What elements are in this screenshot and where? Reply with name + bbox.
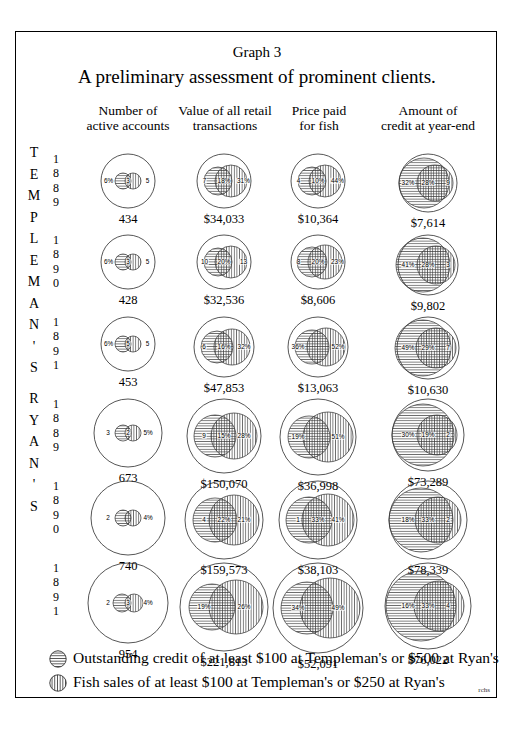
circle-value-label: 32% xyxy=(401,180,415,186)
circle-value-label: 10 xyxy=(200,259,208,265)
cell-total-label: $8,606 xyxy=(263,293,373,308)
brand-label-ryans: RYAN'S xyxy=(27,388,41,517)
circle-value-label: 30% xyxy=(401,432,415,438)
cell-total-label: 428 xyxy=(73,293,183,308)
year-digit: 8 xyxy=(50,411,62,425)
circle-value-label: 18% xyxy=(217,178,231,184)
year-label: 1889 xyxy=(50,397,62,455)
brand-letter: E xyxy=(27,250,41,272)
brand-letter: R xyxy=(27,388,41,410)
year-digit: 9 xyxy=(50,590,62,604)
circle-value-label: 6% xyxy=(103,178,113,184)
circle-value-label: 22% xyxy=(217,517,231,523)
circle-value-label: 41% xyxy=(331,517,345,523)
legend-swatch-0 xyxy=(48,649,68,669)
circle-value-label: 4 xyxy=(446,603,451,609)
circle-value-label: 3 xyxy=(126,178,131,184)
column-header-1-line2: transactions xyxy=(166,119,284,134)
circle-value-label: 33% xyxy=(421,603,435,609)
data-circle-cell: 19%51% xyxy=(277,396,359,478)
circle-value-label: 3 xyxy=(446,262,451,268)
data-circle-cell: 820%23% xyxy=(288,232,348,292)
data-circle-cell: 6%35 xyxy=(98,151,158,211)
data-circle-cell: 325% xyxy=(91,396,165,470)
data-circle-cell: 6%35 xyxy=(98,232,158,292)
year-digit: 1 xyxy=(50,561,62,575)
circle-value-label: 33% xyxy=(421,517,435,523)
year-label: 1891 xyxy=(50,315,62,373)
column-header-1-line1: Value of all retail xyxy=(166,104,284,119)
circle-value-label: 8 xyxy=(296,259,301,265)
year-digit: 8 xyxy=(50,166,62,180)
chart-frame: Graph 3 A preliminary assessment of prom… xyxy=(15,31,497,698)
year-digit: 1 xyxy=(50,315,62,329)
year-digit: 8 xyxy=(50,575,62,589)
data-circle-cell: 915%28% xyxy=(184,396,264,476)
column-header-2: Price paid for fish xyxy=(274,104,364,133)
circle-value-label: 7 xyxy=(202,178,207,184)
circle-value-label: 44% xyxy=(331,178,345,184)
brand-letter: P xyxy=(27,207,41,229)
year-digit: 8 xyxy=(50,247,62,261)
data-circle-cell: 49%29%7 xyxy=(394,314,462,382)
cell-total-label: $13,063 xyxy=(263,381,373,396)
circle-value-label: 6 xyxy=(202,344,207,350)
column-header-0: Number of active accounts xyxy=(78,104,178,133)
column-header-2-line1: Price paid xyxy=(274,104,364,119)
circle-value-label: 2 xyxy=(106,600,111,606)
circle-value-label: 41% xyxy=(401,262,415,268)
year-digit: 0 xyxy=(50,522,62,536)
circle-value-label: 32% xyxy=(237,344,251,350)
circle-value-label: 19% xyxy=(421,432,435,438)
circle-value-label: 16% xyxy=(217,344,231,350)
circle-value-label: 3 xyxy=(106,430,111,436)
cell-total-label: 434 xyxy=(73,212,183,227)
brand-letter: Y xyxy=(27,410,41,432)
circle-value-label: 16% xyxy=(401,603,415,609)
year-label: 1890 xyxy=(50,479,62,537)
brand-letter: ' xyxy=(27,336,41,358)
cell-total-label: $10,364 xyxy=(263,212,373,227)
brand-letter: N xyxy=(27,453,41,475)
data-circle-cell: 422%21% xyxy=(182,478,266,562)
data-circle-cell: 16%33%4 xyxy=(382,560,474,652)
data-circle-cell: 36%52% xyxy=(285,314,351,380)
data-circle-cell: 32%28%9 xyxy=(396,151,460,215)
legend-swatch-1 xyxy=(48,673,68,693)
circle-value-label: 6% xyxy=(103,341,113,347)
year-label: 1889 xyxy=(50,152,62,210)
data-circle-cell: 41%28%3 xyxy=(395,232,461,298)
circle-value-label: 18% xyxy=(401,517,415,523)
year-digit: 1 xyxy=(50,604,62,618)
circle-value-label: 20% xyxy=(311,259,325,265)
circle-value-label: 5% xyxy=(143,430,153,436)
brand-letter: S xyxy=(27,496,41,518)
circle-value-label: 4 xyxy=(202,517,207,523)
circle-value-label: 5 xyxy=(145,341,150,347)
brand-letter: L xyxy=(27,228,41,250)
circle-value-label: 23% xyxy=(331,259,345,265)
circle-value-label: 13 xyxy=(239,259,247,265)
year-digit: 9 xyxy=(50,262,62,276)
year-digit: 9 xyxy=(50,344,62,358)
brand-letter: S xyxy=(27,357,41,379)
year-digit: 9 xyxy=(50,508,62,522)
brand-letter: E xyxy=(27,164,41,186)
circle-value-label: 28% xyxy=(237,433,251,439)
year-digit: 1 xyxy=(50,152,62,166)
circle-value-label: 3 xyxy=(126,259,131,265)
data-circle-cell: 34%49% xyxy=(270,560,366,656)
circle-value-label: 19% xyxy=(197,604,211,610)
circle-value-label: 2 xyxy=(446,432,451,438)
circle-value-label: 3 xyxy=(126,600,131,606)
year-digit: 1 xyxy=(50,358,62,372)
circle-value-label: 33% xyxy=(311,517,325,523)
data-circle-cell: 24% xyxy=(88,478,168,558)
circle-value-label: 6% xyxy=(103,259,113,265)
circle-value-label: 26% xyxy=(237,604,251,610)
circle-value-label: 4% xyxy=(143,515,153,521)
data-circle-cell: 234% xyxy=(85,560,171,646)
circle-value-label: 49% xyxy=(401,345,415,351)
data-circle-cell: 1020%13 xyxy=(194,232,254,292)
circle-value-label: 5 xyxy=(126,341,131,347)
